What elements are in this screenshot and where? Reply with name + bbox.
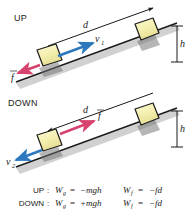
velocity-label-down: v <box>6 156 11 167</box>
equation-gravity-value-down: +mgh <box>80 198 102 208</box>
equation-friction-value-up: −fd <box>149 185 163 195</box>
displacement-label-up: d <box>83 19 89 30</box>
equation-separator-down: : <box>47 199 49 208</box>
equation-gravity-value-up: −mgh <box>80 185 102 195</box>
block-upper-down <box>135 103 160 136</box>
velocity-label-up: v <box>95 33 100 44</box>
equation-gravity-equals-up: = <box>70 185 75 195</box>
block-lower-down <box>37 129 63 162</box>
block-lower-up <box>37 44 63 77</box>
equation-friction-subscript-down: f <box>131 203 134 209</box>
case-label-down: DOWN <box>8 98 38 108</box>
friction-arrow-up <box>18 65 40 73</box>
velocity-subscript-up: 1 <box>101 39 104 46</box>
equation-gravity-subscript-up: g <box>63 190 66 196</box>
equation-friction-subscript-up: f <box>131 190 134 196</box>
equation-case-down: DOWN <box>19 199 45 208</box>
block-upper-up <box>135 18 160 51</box>
equation-gravity-subscript-down: g <box>63 203 66 209</box>
velocity-arrow-up <box>58 43 93 56</box>
height-label-down: h <box>180 123 185 134</box>
panel-up: d v 1 f h <box>10 8 185 89</box>
height-label-up: h <box>180 38 185 49</box>
equation-gravity-equals-down: = <box>70 198 75 208</box>
equation-friction-value-down: −fd <box>149 198 163 208</box>
equation-case-up: UP <box>33 186 44 195</box>
equation-row-up: UP : W g = −mgh W f = −fd <box>33 185 163 196</box>
equation-separator-up: : <box>47 186 49 195</box>
panel-down: d f v 2 h <box>6 93 185 174</box>
displacement-label-down: d <box>83 104 89 115</box>
equations-block: UP : W g = −mgh W f = −fd DOWN : W g = +… <box>19 185 163 209</box>
case-label-up: UP <box>14 13 27 23</box>
equation-friction-equals-down: = <box>138 198 143 208</box>
physics-incline-figure: d v 1 f h <box>0 0 194 218</box>
friction-label-up: f <box>11 72 15 83</box>
equation-friction-equals-up: = <box>138 185 143 195</box>
velocity-subscript-down: 2 <box>12 162 16 169</box>
equation-row-down: DOWN : W g = +mgh W f = −fd <box>19 198 163 209</box>
friction-arrow-down <box>60 121 94 134</box>
